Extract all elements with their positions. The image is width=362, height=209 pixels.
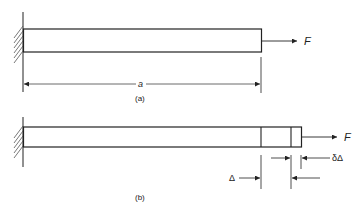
increment-label: δΔ xyxy=(332,153,343,163)
extension-label: Δ xyxy=(229,173,235,183)
panel-b: F δΔ Δ (b) xyxy=(14,117,352,202)
bar xyxy=(24,127,302,147)
panel-a: F a (a) xyxy=(14,12,312,103)
force-label: F xyxy=(304,35,312,47)
beam-diagram: F a (a) F δΔ Δ xyxy=(0,0,362,209)
caption-b: (b) xyxy=(135,193,145,202)
force-label: F xyxy=(344,131,352,143)
bar xyxy=(24,29,262,52)
length-label: a xyxy=(138,79,143,89)
fixed-wall-icon xyxy=(14,12,23,92)
caption-a: (a) xyxy=(135,94,145,103)
fixed-wall-icon xyxy=(14,117,23,167)
